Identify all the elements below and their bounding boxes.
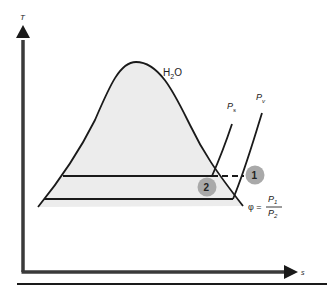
x-axis-arrow-icon bbox=[284, 265, 298, 279]
formula-denominator: P2 bbox=[268, 208, 278, 219]
x-axis-label: s bbox=[301, 269, 305, 276]
formula-numerator: P1 bbox=[268, 194, 277, 205]
formula-lhs: φ = bbox=[248, 202, 262, 212]
ps-label: Ps bbox=[227, 101, 236, 113]
pv-label: Pv bbox=[256, 92, 266, 104]
substance-label: H2O bbox=[163, 67, 182, 80]
pv-curve bbox=[233, 113, 262, 199]
y-axis-label: T bbox=[20, 13, 26, 22]
ps-curve bbox=[212, 124, 232, 176]
point-1-label: 1 bbox=[252, 170, 258, 181]
point-2-label: 2 bbox=[204, 182, 210, 193]
y-axis-arrow-icon bbox=[16, 25, 30, 38]
ts-diagram: 1 2 T s H2O Ps Pv φ = P1 P2 bbox=[0, 0, 327, 289]
